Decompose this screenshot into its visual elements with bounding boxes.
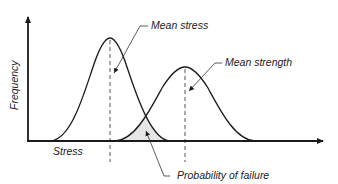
x-axis-label: Stress [53, 146, 83, 157]
y-axis-label: Frequency [9, 60, 20, 110]
failure-overlap-region [115, 114, 170, 141]
probability-of-failure-annotation: Probability of failure [177, 170, 269, 181]
mean-strength-leader [189, 63, 222, 91]
mean-strength-annotation: Mean strength [225, 57, 292, 68]
mean-stress-leader [114, 26, 148, 73]
mean-stress-annotation: Mean stress [151, 20, 208, 31]
